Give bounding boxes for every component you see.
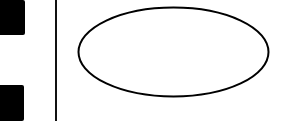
- ellipse-label: [78, 7, 269, 97]
